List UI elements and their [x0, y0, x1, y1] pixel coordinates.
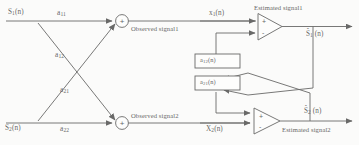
sum1-plus-glyph: +	[120, 17, 125, 26]
wire-shat1-into-f21	[224, 90, 248, 95]
wire-s2-cross-to-sum1	[38, 24, 115, 121]
amp2-minus-sign: -	[259, 123, 261, 130]
estimated-output-shat1: Sˆ1 (n)	[306, 31, 324, 39]
separator-amp2	[254, 108, 280, 134]
amp2-plus-sign: +	[259, 113, 263, 120]
mixing-coefficient-a11: a11	[57, 9, 66, 18]
mixing-coefficient-a12: a12	[55, 51, 64, 60]
wire-f21-to-amp2	[216, 92, 250, 113]
estimated-signal-2-header: Estimated signal2	[282, 127, 331, 134]
estimated-signal-1-header: Estimated signal1	[254, 5, 303, 12]
observed-signal-1-label: Observed signal1	[131, 26, 179, 33]
amp1-minus-sign: -	[262, 29, 264, 36]
amp1-plus-sign: +	[262, 18, 266, 25]
mixing-coefficient-a21: a21	[60, 86, 69, 95]
source-label-s2: S2(n)	[5, 125, 21, 133]
adaptive-filter-label-a12: a12(n)	[200, 57, 216, 65]
estimated-output-shat2: Sˆ2 (n)	[304, 108, 322, 116]
sum2-plus-glyph: +	[120, 119, 125, 128]
source-label-s1: S1(n)	[8, 9, 24, 17]
mixed-signal-x2-label: X2(n)	[206, 126, 223, 134]
diagram-wiring: + +	[0, 0, 359, 145]
mixed-signal-x1-label: x1(n)	[209, 10, 224, 18]
observed-signal-2-label: Observed signal2	[131, 113, 179, 120]
wire-s1-cross-to-sum2	[38, 23, 115, 120]
adaptive-filter-label-a21: a21(n)	[200, 79, 216, 87]
mixing-coefficient-a22: a22	[60, 125, 69, 134]
bss-block-diagram: + + S1(n) S2(n) a11 a12 a21 a22 Observed…	[0, 0, 359, 145]
